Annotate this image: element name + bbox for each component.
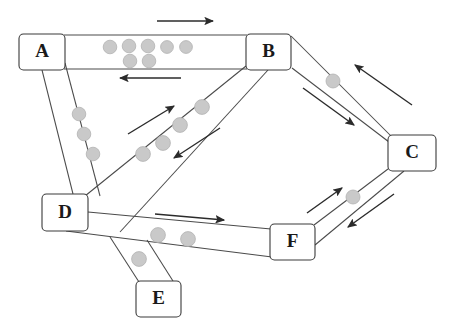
node-label-a: A xyxy=(35,40,49,61)
corridor-c-f-wall-lower xyxy=(315,171,404,245)
token-circle xyxy=(86,147,100,161)
node-d[interactable]: D xyxy=(42,194,88,231)
corridor-a-d-wall-left xyxy=(42,70,73,194)
token-circle xyxy=(156,136,171,151)
token-circle xyxy=(72,107,86,121)
token-circle xyxy=(181,232,196,247)
token-circle xyxy=(142,54,156,68)
corridor-d-f-wall-upper xyxy=(88,212,271,229)
token-circle xyxy=(103,40,117,54)
arrow-c-to-b-return xyxy=(355,65,412,105)
token-circle xyxy=(161,41,174,54)
node-boxes: ABCDEF xyxy=(19,34,436,317)
token-circle xyxy=(132,252,147,267)
node-e[interactable]: E xyxy=(136,281,181,317)
diagram-svg: ABCDEF xyxy=(0,0,451,336)
node-label-c: C xyxy=(405,141,419,162)
token-circle xyxy=(180,41,193,54)
node-c[interactable]: C xyxy=(388,135,436,171)
node-b[interactable]: B xyxy=(246,34,291,70)
token-circle xyxy=(195,100,210,115)
arrow-f-to-c-outbound xyxy=(307,188,342,213)
node-f[interactable]: F xyxy=(270,224,315,260)
corridor-b-c-wall-upper xyxy=(291,36,391,136)
node-label-e: E xyxy=(152,287,165,308)
node-label-b: B xyxy=(262,40,275,61)
corridor-d-f-wall-lower xyxy=(66,231,272,257)
arrow-b-to-c-outbound xyxy=(303,88,354,125)
token-circle xyxy=(123,54,137,68)
token-circle xyxy=(346,190,360,204)
token-circle xyxy=(326,74,340,88)
diagram-canvas: ABCDEF xyxy=(0,0,451,336)
token-circle xyxy=(173,118,188,133)
node-a[interactable]: A xyxy=(19,34,65,70)
token-circle xyxy=(77,127,91,141)
token-circle xyxy=(122,39,136,53)
token-circle xyxy=(141,39,155,53)
token-circle xyxy=(136,147,151,162)
token-circles xyxy=(72,39,360,266)
node-label-d: D xyxy=(58,201,72,222)
token-circle xyxy=(151,228,166,243)
corridor-d-e-wall-right xyxy=(147,240,173,281)
node-label-f: F xyxy=(287,230,299,251)
corridor-d-b-wall-left xyxy=(85,66,246,196)
